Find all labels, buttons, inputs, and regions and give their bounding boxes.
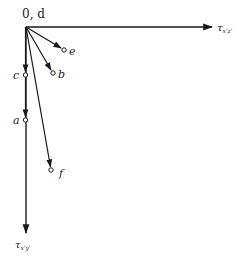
origin-label: 0, d [22, 7, 45, 21]
point-c-label: c [13, 69, 19, 82]
point-f [49, 168, 53, 172]
point-b [51, 71, 55, 75]
vector-e [26, 27, 61, 48]
vertical-axis-label: τx'y' [15, 239, 31, 252]
point-b-label: b [58, 68, 65, 81]
vector-diagram: 0, d τx'z' τx'y' e b c a f [0, 0, 250, 266]
point-a-label: a [13, 114, 20, 127]
point-e-label: e [69, 45, 76, 58]
point-c [23, 73, 27, 77]
point-f-label: f [58, 167, 65, 180]
horizontal-axis-label: τx'z' [217, 22, 233, 34]
point-e [62, 48, 66, 52]
point-a [23, 118, 27, 122]
